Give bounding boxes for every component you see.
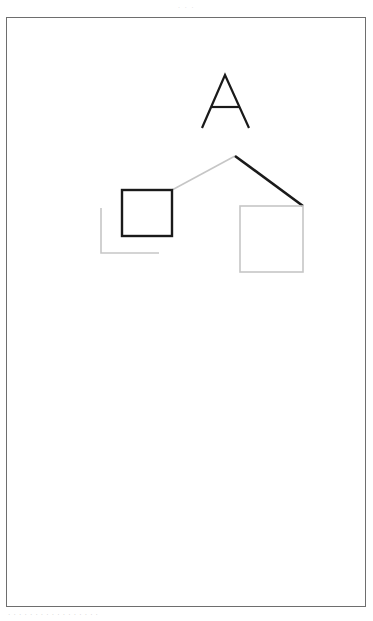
letter-a-outline <box>202 75 249 128</box>
roof-right <box>235 156 303 206</box>
shape-layer <box>101 75 303 272</box>
drawing-svg <box>0 0 373 621</box>
drawing-canvas <box>0 0 373 621</box>
roof-left <box>172 156 235 190</box>
square-right-ghost <box>240 206 303 272</box>
page-root: · · · · · · · · · · · · · · · · · · · · <box>0 0 373 621</box>
footer-caption: · · · · · · · · · · · · · · · · · <box>8 608 373 621</box>
square-left-ink <box>122 190 172 236</box>
square-left-ghost <box>101 208 159 253</box>
